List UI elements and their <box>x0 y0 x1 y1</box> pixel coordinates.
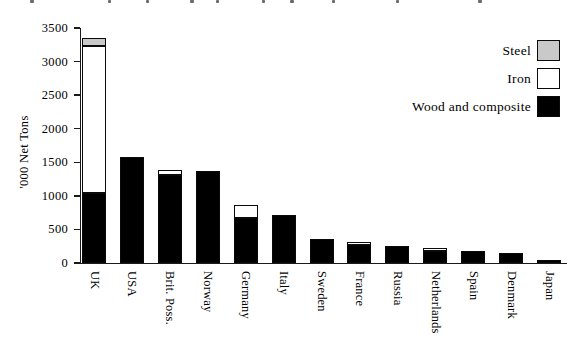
cropped-text-fragment <box>190 0 194 3</box>
legend-swatch-wood <box>537 96 560 117</box>
legend-label-iron: Iron <box>311 71 531 86</box>
x-label-japan: Japan <box>543 271 556 300</box>
bar-japan-wood <box>537 260 561 263</box>
x-label-spain: Spain <box>467 271 480 300</box>
cropped-text-fragment <box>290 0 294 3</box>
y-tick-2000 <box>74 128 80 129</box>
legend-swatch-iron <box>537 68 560 89</box>
y-tick-3000 <box>74 61 80 62</box>
x-label-france: France <box>353 271 366 306</box>
bar-brit-poss--iron <box>158 170 182 175</box>
legend-label-steel: Steel <box>311 43 531 58</box>
y-tick-1000 <box>74 195 80 196</box>
bar-uk-wood <box>82 193 106 263</box>
x-label-russia: Russia <box>391 271 404 306</box>
bar-norway-wood <box>196 171 220 263</box>
bar-netherlands-iron <box>423 248 447 251</box>
bar-russia-wood <box>385 246 409 263</box>
bar-germany-wood <box>234 218 258 263</box>
legend-swatch-steel <box>537 40 560 61</box>
bar-france-iron <box>347 242 371 245</box>
bar-usa-wood <box>120 157 144 263</box>
y-tick-1500 <box>74 162 80 163</box>
x-label-norway: Norway <box>201 271 214 312</box>
bar-germany-iron <box>234 205 258 219</box>
y-tick-label-3500: 3500 <box>26 21 68 35</box>
x-label-sweden: Sweden <box>315 271 328 312</box>
x-label-uk: UK <box>88 271 101 289</box>
cropped-text-fragment <box>146 0 149 3</box>
bar-spain-wood <box>461 251 485 263</box>
x-label-italy: Italy <box>277 271 290 295</box>
cropped-text-fragment <box>30 0 34 3</box>
y-tick-label-2500: 2500 <box>26 88 68 102</box>
y-tick-500 <box>74 229 80 230</box>
cropped-text-fragment <box>216 0 219 3</box>
bar-uk-iron <box>82 46 106 193</box>
y-tick-label-500: 500 <box>26 222 68 236</box>
x-axis-baseline <box>74 263 567 264</box>
cropped-text-fragment <box>108 0 111 3</box>
cropped-text-fragment <box>478 0 482 3</box>
legend-label-wood: Wood and composite <box>311 99 531 114</box>
bar-brit-poss--wood <box>158 175 182 263</box>
x-label-netherlands: Netherlands <box>429 271 442 334</box>
bar-denmark-wood <box>499 253 523 263</box>
bar-italy-wood <box>272 215 296 263</box>
cropped-text-fragment <box>262 0 265 3</box>
y-tick-label-1000: 1000 <box>26 189 68 203</box>
bar-france-wood <box>347 245 371 263</box>
x-label-denmark: Denmark <box>505 271 518 319</box>
cropped-text-fragment <box>332 0 335 3</box>
bar-sweden-wood <box>310 239 334 263</box>
y-tick-label-1500: 1500 <box>26 155 68 169</box>
y-tick-2500 <box>74 94 80 95</box>
x-label-usa: USA <box>125 271 138 297</box>
y-tick-label-0: 0 <box>26 256 68 270</box>
stacked-bar-chart-figure: '000 Net Tons 05001000150020002500300035… <box>0 0 577 349</box>
x-label-brit-poss-: Brit. Poss. <box>163 271 176 325</box>
y-tick-3500 <box>74 27 80 28</box>
bar-uk-steel <box>82 38 106 46</box>
cropped-text-fragment <box>396 0 399 3</box>
bar-netherlands-wood <box>423 251 447 263</box>
x-label-germany: Germany <box>239 271 252 319</box>
y-tick-label-2000: 2000 <box>26 122 68 136</box>
y-tick-label-3000: 3000 <box>26 55 68 69</box>
